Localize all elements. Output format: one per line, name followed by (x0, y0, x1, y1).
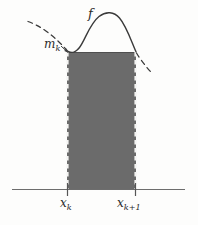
xk-label: xk (60, 197, 72, 212)
xk-label-base: x (60, 196, 67, 210)
xk1-label-subscript: k+1 (124, 202, 141, 212)
xk1-label-base: x (117, 196, 124, 210)
xk-label-subscript: k (67, 202, 72, 212)
curve-dashed-right (137, 53, 151, 72)
xk1-label: xk+1 (117, 197, 141, 212)
figure-canvas (0, 0, 198, 225)
mk-label-subscript: k (55, 43, 60, 53)
riemann-lower-sum-figure: f mk xk xk+1 (0, 0, 198, 225)
mk-label: mk (44, 38, 60, 53)
lower-sum-rectangle (67, 52, 136, 189)
function-label: f (88, 7, 93, 20)
mk-label-base: m (44, 37, 55, 51)
curve-solid (68, 13, 136, 53)
